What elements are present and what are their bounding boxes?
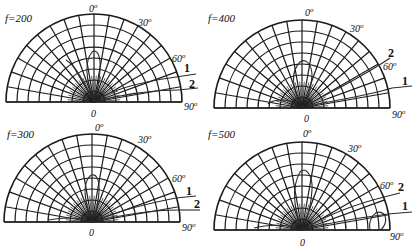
panel-title: f=300 [7, 128, 34, 140]
tick-90deg: 90o [392, 108, 406, 120]
polar-figure: f=200 0o 30o 60o 90o 0 1 2 f=400 0o 30o … [0, 0, 417, 248]
tick-60deg: 60o [383, 60, 397, 72]
polar-grid [214, 142, 390, 230]
tick-origin: 0 [89, 227, 94, 238]
leader-1 [388, 212, 412, 214]
polar-grid [6, 14, 182, 102]
panel-title: f=400 [208, 12, 235, 24]
tick-origin: 0 [91, 108, 96, 119]
curve-label-1: 1 [402, 74, 408, 88]
tick-60deg: 60o [380, 179, 394, 191]
curve-label-2: 2 [194, 197, 200, 211]
curve-label-2: 2 [398, 180, 404, 194]
tick-90deg: 90o [390, 230, 404, 242]
panel-f200: f=200 0o 30o 60o 90o 0 1 2 [5, 2, 198, 119]
polar-grid [4, 134, 180, 222]
tick-origin: 0 [304, 113, 309, 124]
panel-title: f=500 [208, 128, 235, 140]
panel-title: f=200 [5, 12, 32, 24]
tick-30deg: 30o [349, 22, 364, 34]
tick-90deg: 90o [182, 221, 196, 233]
curve-label-2: 2 [388, 46, 394, 60]
tick-0deg: 0o [303, 127, 312, 139]
tick-0deg: 0o [89, 2, 98, 14]
curve-label-1: 1 [184, 61, 190, 75]
tick-60deg: 60o [172, 172, 186, 184]
tick-30deg: 30o [347, 142, 362, 154]
tick-0deg: 0o [95, 121, 104, 133]
tick-0deg: 0o [305, 6, 314, 18]
tick-90deg: 90o [184, 100, 198, 112]
panel-f300: f=300 0o 30o 60o 90o 0 1 2 [4, 121, 200, 238]
panel-f500: f=500 0o 30o 60o 90o 0 2 1 [208, 127, 412, 248]
tick-30deg: 30o [137, 16, 152, 28]
curve-label-1: 1 [186, 184, 192, 198]
panel-f400: f=400 0o 30o 60o 90o 0 2 1 [208, 6, 412, 124]
curve-label-2: 2 [189, 77, 195, 91]
tick-30deg: 30o [137, 133, 152, 145]
curve-label-1: 1 [402, 199, 408, 213]
tick-origin: 0 [300, 237, 305, 248]
